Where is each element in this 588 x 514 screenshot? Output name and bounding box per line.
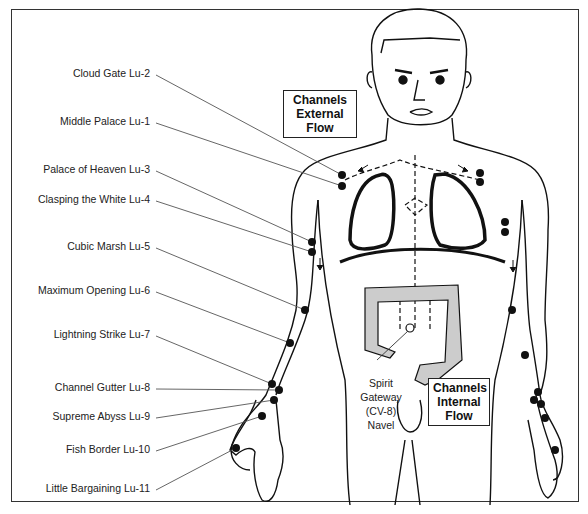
box-line: Flow xyxy=(433,409,485,423)
channels-internal-flow-box: Channels Internal Flow xyxy=(428,378,490,426)
acupoint-label: Maximum Opening Lu-6 xyxy=(38,284,150,296)
acupoint-dot xyxy=(301,306,309,314)
hairline xyxy=(381,38,460,53)
box-line: External xyxy=(288,107,352,121)
navel-label: Spirit Gateway (CV-8) Navel xyxy=(356,376,406,432)
acupoint-dot xyxy=(308,248,316,256)
acupoint-dot xyxy=(338,171,346,179)
channels-external-flow-box: Channels External Flow xyxy=(283,90,357,138)
lung-right xyxy=(431,174,485,248)
ear-right xyxy=(466,72,471,88)
acupoint-dot xyxy=(270,396,278,404)
acupoint-dot xyxy=(275,386,283,394)
acupoint-label: Channel Gutter Lu-8 xyxy=(55,381,150,393)
acupoint-dot xyxy=(258,412,266,420)
acupoint-label: Clasping the White Lu-4 xyxy=(38,193,150,205)
acupoint-dot xyxy=(338,182,346,190)
acupoint-label: Lightning Strike Lu-7 xyxy=(54,328,150,340)
acupoint-label: Supreme Abyss Lu-9 xyxy=(53,410,150,422)
lung-left xyxy=(350,174,394,249)
ear-left xyxy=(367,72,372,88)
box-line: Internal xyxy=(433,395,485,409)
navel-line: Spirit xyxy=(356,376,406,390)
navel-line: Navel xyxy=(356,418,406,432)
acupoint-label: Cloud Gate Lu-2 xyxy=(73,67,150,79)
box-line: Channels xyxy=(433,381,485,395)
acupoint-label: Middle Palace Lu-1 xyxy=(60,115,150,127)
acupoint-label: Little Bargaining Lu-11 xyxy=(46,482,150,494)
acupoint-dot xyxy=(286,339,294,347)
navel-line: Gateway xyxy=(356,390,406,404)
acupoint-dot xyxy=(232,444,240,452)
acupoint-dot xyxy=(308,238,316,246)
acupoint-label: Palace of Heaven Lu-3 xyxy=(43,163,150,175)
diaphragm xyxy=(340,249,505,262)
acupoint-label: Fish Border Lu-10 xyxy=(66,443,150,455)
head-outline xyxy=(372,9,467,125)
box-line: Flow xyxy=(288,121,352,135)
box-line: Channels xyxy=(288,93,352,107)
navel-point xyxy=(406,324,414,332)
navel-line: (CV-8) xyxy=(356,404,406,418)
colon xyxy=(365,285,462,385)
acupoint-label: Cubic Marsh Lu-5 xyxy=(67,240,150,252)
acupoint-dot xyxy=(268,380,276,388)
